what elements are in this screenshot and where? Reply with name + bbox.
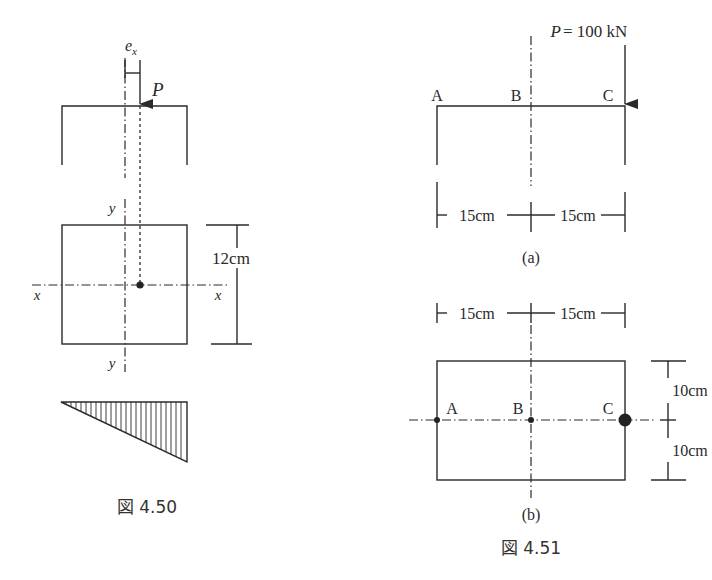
height-dimension-b: 10cm 10cm (651, 361, 708, 480)
axis-x-left-label: x (33, 287, 41, 303)
point-a-b-label: A (446, 400, 458, 417)
point-a-label: A (431, 87, 443, 104)
caption-4-50: 図 4.50 (117, 497, 177, 517)
figure-4-50: ex P y y x x 12cm (32, 37, 256, 517)
figure-4-51b: 15cm 15cm A B C 10cm 10cm (b) 図 4.51 (409, 303, 708, 558)
width-dimension-b: 15cm 15cm (437, 303, 625, 328)
eccentricity-label: ex (125, 37, 137, 57)
point-c-b-label: C (603, 400, 614, 417)
axis-y-top-label: y (107, 200, 116, 216)
dim-right-a-label: 15cm (560, 207, 596, 224)
point-b-b-label: B (513, 400, 524, 417)
axis-x-right-label: x (214, 287, 222, 303)
point-b-icon (528, 417, 534, 423)
width-dimension-a: 15cm 15cm (437, 182, 625, 232)
dim-top-b-label: 10cm (672, 382, 708, 399)
dim-right-b-label: 15cm (560, 305, 596, 322)
dim-bottom-b-label: 10cm (672, 442, 708, 459)
dim-left-a-label: 15cm (459, 207, 495, 224)
height-dimension-label: 12cm (212, 249, 250, 268)
axis-y-bottom-label: y (107, 355, 116, 371)
figure-canvas: ex P y y x x 12cm (0, 0, 712, 580)
dim-left-b-label: 15cm (459, 305, 495, 322)
load-label: P (151, 79, 164, 100)
sub-label-b: (b) (522, 506, 541, 524)
load-point-c-icon (619, 414, 632, 427)
point-c-label: C (603, 87, 614, 104)
load-label-a: P= 100 kN (550, 22, 628, 41)
point-b-label: B (511, 87, 522, 104)
point-a-icon (434, 417, 440, 423)
figure-4-51a: P= 100 kN A B C 15cm 15cm (a) (431, 22, 627, 267)
load-point-icon (136, 281, 143, 288)
eccentricity-dimension: ex (125, 37, 140, 78)
stress-distribution-triangle (61, 402, 187, 462)
caption-4-51: 図 4.51 (501, 538, 561, 558)
sub-label-a: (a) (522, 249, 540, 267)
